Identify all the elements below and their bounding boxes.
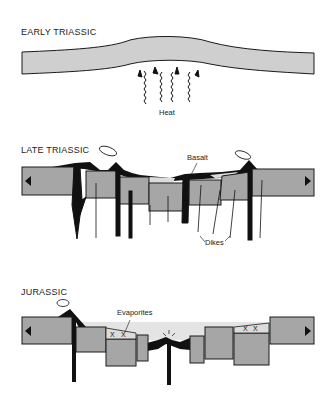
svg-text:X: X	[253, 325, 258, 332]
eruption-cloud-icon	[234, 149, 251, 161]
early-triassic-panel	[22, 36, 314, 104]
heat-arrows	[138, 67, 199, 104]
panel-title-late-triassic: LATE TRIASSIC	[21, 145, 89, 155]
eruption-cloud-icon	[98, 144, 118, 158]
heat-label: Heat	[159, 108, 175, 117]
rift-evolution-diagram: XX XX	[0, 0, 331, 415]
jurassic-panel: XX XX	[22, 300, 314, 386]
uplifted-crust-slab	[22, 36, 314, 74]
crust-block	[220, 172, 250, 200]
panel-title-early-triassic: EARLY TRIASSIC	[21, 27, 96, 37]
crust-block	[205, 327, 233, 359]
crust-block	[119, 177, 149, 204]
crust-block	[86, 171, 116, 198]
feeder-dike	[167, 340, 171, 385]
basalt-label: Basalt	[187, 153, 208, 162]
panel-title-jurassic: JURASSIC	[21, 287, 67, 297]
crust-block	[190, 336, 204, 363]
crust-block	[149, 183, 185, 211]
crust-block	[234, 333, 269, 365]
evaporites-label: Evaporites	[117, 308, 152, 317]
crust-block	[137, 335, 148, 361]
eruption-cloud-icon	[57, 300, 69, 307]
svg-text:X: X	[243, 325, 248, 332]
dikes-label: Dikes	[205, 238, 224, 247]
feeder-dike	[72, 318, 76, 382]
late-triassic-panel	[22, 144, 314, 242]
crust-block	[76, 327, 106, 352]
svg-text:X: X	[110, 331, 115, 338]
crust-block	[106, 339, 136, 366]
crust-block	[189, 180, 221, 205]
